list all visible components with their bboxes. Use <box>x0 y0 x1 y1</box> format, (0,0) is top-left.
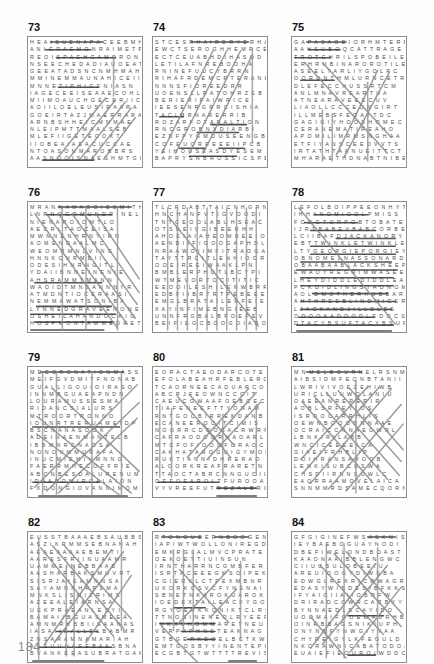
letter-row: A E N B I I F I G O O G A P H D L <box>155 240 266 247</box>
letter-row: B S C N A N A S O O K <box>30 427 141 434</box>
letter-row: A S S U U U A E E B A A S B N A <box>30 643 141 650</box>
puzzle-74: 74S T C E S R H A I R D R Y E R H AE W C… <box>152 22 268 168</box>
letter-row: T I A F E N E E F T T Y O N A M <box>155 405 266 412</box>
letter-row: X A Y I N F I M E B N G I E E B <box>155 306 266 313</box>
puzzle-book-page: 73H E A I S U E N A P A C E E B M H TA N… <box>0 0 434 664</box>
letter-rows: G A P A S A G E I O R H M T E R RA A H S… <box>292 37 406 167</box>
letter-row: F A E R R M H E C O F F R I E <box>30 463 141 470</box>
letter-row: A N L M N A V R E A R T U A <box>294 90 405 97</box>
letter-row: Y E I H O U S E A S D Y E S E M <box>155 148 266 155</box>
letter-row: R O Z A R F O T A R A L T I O N <box>155 119 266 126</box>
letter-grid[interactable]: G A P A S A G E I O R H M T E R RA A H S… <box>291 36 407 168</box>
letter-grid[interactable]: G F G I G I N E F W S A S K N I SI E Y B… <box>291 531 407 663</box>
letter-row: D T A C Y B S U F T A C Y B S U F <box>294 320 405 327</box>
letter-row: C A F R A O D O O R H A O A R L G <box>155 434 266 441</box>
letter-row: H N N K C N R M B I I <box>30 255 141 262</box>
letter-row: U O E N S L L R A T O H R Z E B <box>155 90 266 97</box>
letter-row: B A M A I I B G U A S M E E A <box>30 614 141 621</box>
letter-row: I R N T H A R R N C G M B F E R <box>155 563 266 570</box>
puzzle-number-label: 81 <box>292 352 407 363</box>
letter-row: R E O I S P A E H C A M O R O N A <box>30 54 141 61</box>
letter-row: I S R O O C A R R H L I S <box>294 413 405 420</box>
letter-row: T L C R D A B T T A I C N H G R N <box>155 204 266 211</box>
letter-grid[interactable]: E O R A C T A E O D A R C O T E OE F O L… <box>152 366 268 498</box>
letter-row: R N T G O C B I R R E K D A N B <box>155 413 266 420</box>
letter-row: N R A A W O I I M F I T R A O G A <box>155 248 266 255</box>
letter-row: E W A O Y R E G R I M W A S E E E <box>294 269 405 276</box>
letter-row: I A G E C E E I S E A A E C O H L <box>30 90 141 97</box>
letter-row: L E N K I S U B C E S W A <box>294 463 405 470</box>
letter-row: I B B M N R C N A O S A <box>30 442 141 449</box>
letter-rows: M E C O R O N A T I O N M A S S IM E I F… <box>28 367 142 497</box>
letter-row: N I E N A R O I O M T L O <box>30 219 141 226</box>
letter-row: Y D A I I B N N E I N E N I E <box>30 269 141 276</box>
puzzle-number-label: 74 <box>153 22 268 33</box>
puzzle-76: 76M R A N N A M A G G I E S M I T HL N R… <box>27 187 143 333</box>
letter-row: G O E I R T A Z J M A E R R A R A <box>30 112 141 119</box>
letter-row: I N N M B G U A E A P N D N <box>30 391 141 398</box>
letter-row: U O O M A I F O O E W A U R H B T <box>294 614 405 621</box>
letter-row: C A E U C G W A A F O E B C E C <box>155 398 266 405</box>
letter-rows: G F G I G I N E F W S A S K N I SI E Y B… <box>292 532 406 662</box>
puzzle-83: 83R T O N G U E E R N B O O G E NI A P I… <box>152 517 268 663</box>
letter-grid[interactable]: R T O N G U E E R N B O O G E NI A P I W… <box>152 531 268 663</box>
letter-row: B M B L E R P H U T L B C Y P I <box>155 269 266 276</box>
letter-grid[interactable]: L E F O L B O I P P E E O N H Y TI H H A… <box>291 201 407 333</box>
puzzle-number-label: 84 <box>292 517 407 528</box>
puzzle-number-label: 80 <box>153 352 268 363</box>
letter-row: C E R A N E M A T I R E A H O <box>294 126 405 133</box>
letter-row: E T F I Y A N S C E E D V V T S <box>294 141 405 148</box>
letter-row: T A Y T T R C I T L E N H I O O R <box>155 255 266 262</box>
letter-row: S N N M M R D S A M E C Q O R N E <box>294 485 405 492</box>
letter-row: O D O O K A D O O D L E D O C S D <box>294 313 405 320</box>
letter-row: T C A O R N E E C A D U A R C O R <box>155 384 266 391</box>
puzzle-number-label: 78 <box>292 187 407 198</box>
letter-row: R N C G R O B N X D I A R B I <box>155 126 266 133</box>
letter-row: A P O M I L I M R M S N G H A A <box>294 133 405 140</box>
letter-row: P C K D I D L I N G S T A O N O M <box>294 284 405 291</box>
letter-row: A H O E I A I A H E O M B E E I O <box>155 233 266 240</box>
letter-row: R I D A N C S I A L U R S <box>30 405 141 412</box>
puzzle-number-label: 73 <box>28 22 143 33</box>
letter-grid[interactable]: T L C R D A B T T A I C N H G R NH N C H… <box>152 201 268 333</box>
letter-row: O A E E A N R E R E R I R <box>294 398 405 405</box>
puzzle-grid-area: 73H E A I S U E N A P A C E E B M H TA N… <box>0 0 434 636</box>
letter-row: M H A R A E T H D N A B T N I B E <box>294 155 405 162</box>
letter-row: S B N E T N K A R O K U A R O K S <box>155 592 266 599</box>
letter-row: E Z D F P Y G M O U S E E N G B A <box>155 133 266 140</box>
letter-grid[interactable]: S T C E S R H A I R D R Y E R H AE W C T… <box>152 36 268 168</box>
letter-row: B V A N K E E A S U B R A T G A M <box>30 650 141 657</box>
letter-rows: L E F O L B O I P P E E O N H Y TI H H A… <box>292 202 406 332</box>
letter-row: F O O G T O R P O B T O B A T E M <box>294 219 405 226</box>
letter-row: A S E E L T A R L I Y G O L R C <box>294 68 405 75</box>
letter-grid[interactable]: M N M E L B O U R N E L R S N M YA I B S… <box>291 366 407 498</box>
letter-row: M I I M O A U C H G E C E R I I C <box>30 97 141 104</box>
letter-row: M T C F O F I O O C F O R A O C <box>155 442 266 449</box>
letter-row: E M T G O S B Y Y I N E N T E P U R <box>155 643 266 650</box>
letter-rows: E O R A C T A E O D A R C O T E OE F O L… <box>153 367 267 497</box>
letter-row: A O I I L O E L E U S I R A A R A <box>30 104 141 111</box>
letter-row: L E T I L A F N R E B O O H A <box>155 61 266 68</box>
letter-row: E C T C E U A B H D I H A S O D <box>155 54 266 61</box>
letter-grid[interactable]: E U S S T B A A A E B S A U B B SA S Z I… <box>27 531 143 663</box>
letter-rows: M N M E L B O U R N E L R S N M YA I B S… <box>292 367 406 497</box>
letter-row: I O E D E X T A I L E A C F Y G O <box>155 599 266 606</box>
puzzle-81: 81M N M E L B O U R N E L R S N M YA I B… <box>291 352 407 498</box>
letter-row: D L E F E C C H U S S R T C M <box>294 83 405 90</box>
letter-row: B A P R Y S N B R O S S I C S P E <box>155 155 266 162</box>
letter-row: M E I F G V D M I T F N O N A B <box>30 376 141 383</box>
letter-row: A O M E N D A A L M C <box>30 240 141 247</box>
letter-row: R G Y O E R K K O N I K T C L R I <box>155 607 266 614</box>
letter-row: T A C I M R N A R E R R I B <box>155 112 266 119</box>
letter-row: E A Q R R A A M O V E L A I C A <box>294 478 405 485</box>
letter-grid[interactable]: M R A N N A M A G G I E S M I T HL N R N… <box>27 201 143 333</box>
puzzle-80: 80E O R A C T A E O D A R C O T E OE F O… <box>152 352 268 498</box>
letter-row: S T C E S R H A I R D R Y E R H A <box>155 39 266 46</box>
puzzle-number-label: 83 <box>153 517 268 528</box>
letter-row: T N T C E O O L A B U H S E A C <box>155 219 266 226</box>
letter-grid[interactable]: M E C O R O N A T I O N M A S S IM E I F… <box>27 366 143 498</box>
letter-grid[interactable]: H E A I S U E N A P A C E E B M H TA N I… <box>27 36 143 168</box>
letter-row: I S R T A C E E E G K S O I P E K <box>155 570 266 577</box>
page-number: 184 <box>18 640 41 654</box>
letter-row: W T M E V O R T O C I T I T I C <box>155 277 266 284</box>
